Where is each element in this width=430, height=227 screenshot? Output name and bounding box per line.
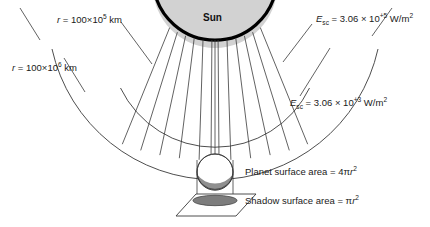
outer-irr-unit-exp: 2 <box>383 96 387 103</box>
solar-irradiance-diagram: Sun r = 100×105 km r = 100×106 km Esc = … <box>0 0 430 227</box>
inner-radius-base: 10 <box>92 14 103 25</box>
outer-irr-base: 10 <box>340 97 353 108</box>
arc-tail-left <box>20 8 40 40</box>
outer-radius-unit: km <box>62 62 77 73</box>
radial-rays <box>122 28 307 160</box>
planet-surface-area-label: Planet surface area = 4πr2 <box>245 167 357 177</box>
outer-irr-unit: W/m <box>361 97 383 108</box>
inner-irr-sub: sc <box>322 19 329 26</box>
planet-area-exp: 2 <box>353 165 357 172</box>
inner-irradiance-label: Esc = 3.06 × 10+5 W/m2 <box>316 14 413 24</box>
outer-radius-eq: = 100 <box>15 62 42 73</box>
inner-irr-base: 10 <box>366 13 379 24</box>
shadow-surface-area-label: Shadow surface area = πr2 <box>245 196 359 206</box>
inner-radius-unit: km <box>107 14 122 25</box>
leader-line-outer-irradiance <box>300 48 330 96</box>
planet-area-text: Planet surface area = 4 <box>245 166 344 177</box>
outer-radius-base: 10 <box>47 62 58 73</box>
shadow-area-text: Shadow surface area = <box>245 195 346 206</box>
outer-irr-eq: = 3.06 <box>303 97 335 108</box>
leader-line-inner-irradiance <box>283 24 312 62</box>
inner-irr-eq: = 3.06 <box>329 13 361 24</box>
outer-irradiance-label: Esc = 3.06 × 10+3 W/m2 <box>290 98 387 108</box>
sun-label: Sun <box>203 12 222 23</box>
outer-radius-label: r = 100×106 km <box>12 63 77 73</box>
leader-line-inner-radius <box>121 22 152 64</box>
shadow-area-exp: 2 <box>355 194 359 201</box>
inner-radius-label: r = 100×105 km <box>57 15 122 25</box>
inner-irr-unit-exp: 2 <box>409 12 413 19</box>
diagram-canvas <box>0 0 430 227</box>
shadow-plane <box>176 194 256 216</box>
planet-sphere <box>197 154 233 190</box>
inner-radius-eq: = 100 <box>60 14 87 25</box>
outer-irr-sub: sc <box>296 103 303 110</box>
inner-irr-unit: W/m <box>387 13 409 24</box>
